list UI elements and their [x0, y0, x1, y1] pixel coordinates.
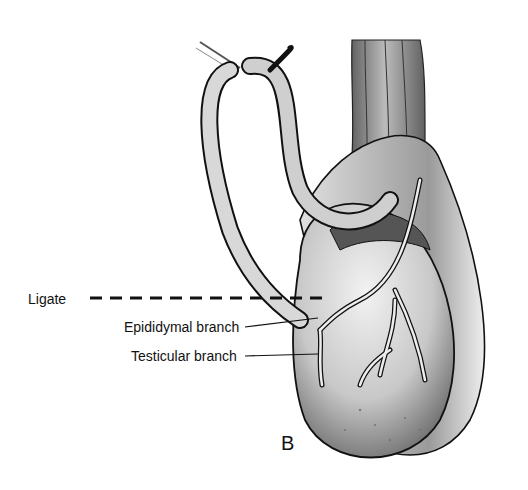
label-epididymal-branch: Epididymal branch — [124, 320, 239, 334]
anatomical-illustration — [0, 0, 528, 490]
label-testicular-branch: Testicular branch — [131, 349, 237, 363]
label-ligate: Ligate — [28, 292, 66, 306]
panel-letter: B — [281, 433, 294, 453]
